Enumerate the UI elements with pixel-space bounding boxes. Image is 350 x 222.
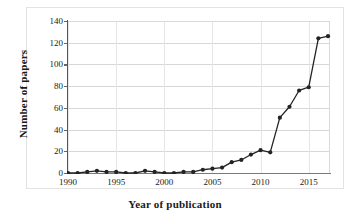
data-point: [249, 152, 253, 156]
data-point: [133, 171, 137, 174]
data-point: [67, 171, 70, 174]
data-point: [239, 158, 243, 162]
data-point: [210, 167, 214, 171]
y-tick-mark: [64, 64, 67, 65]
x-tick-label: 2005: [192, 178, 232, 187]
y-tick-label: 100: [33, 60, 63, 69]
data-point: [172, 171, 176, 174]
y-tick-mark: [64, 173, 67, 174]
data-point: [162, 171, 166, 174]
data-point: [85, 170, 89, 174]
data-point: [297, 88, 301, 92]
data-point: [153, 170, 157, 174]
data-point: [124, 171, 128, 174]
y-tick-mark: [64, 151, 67, 152]
data-point: [230, 160, 234, 164]
y-tick-mark: [64, 86, 67, 87]
x-tick-label: 1990: [48, 178, 88, 187]
y-axis-title: Number of papers: [17, 19, 29, 169]
data-series-papers: [67, 21, 331, 174]
y-tick-mark: [64, 21, 67, 22]
y-tick-mark: [64, 108, 67, 109]
y-tick-label: 80: [33, 82, 63, 91]
y-tick-label: 60: [33, 104, 63, 113]
data-point: [114, 170, 118, 174]
y-tick-mark: [64, 130, 67, 131]
data-point: [258, 148, 262, 152]
data-point: [220, 165, 224, 169]
data-point: [326, 34, 330, 38]
data-point: [307, 85, 311, 89]
data-point: [287, 105, 291, 109]
data-point: [268, 150, 272, 154]
y-tick-label: 20: [33, 147, 63, 156]
data-point: [316, 36, 320, 40]
data-point: [181, 170, 185, 174]
x-tick-label: 1995: [96, 178, 136, 187]
data-point: [95, 169, 99, 173]
data-point: [143, 169, 147, 173]
chart-figure: Number of papers Year of publication 020…: [0, 0, 350, 222]
data-point: [76, 171, 80, 174]
y-tick-label: 40: [33, 126, 63, 135]
data-point: [201, 168, 205, 172]
data-point: [278, 116, 282, 120]
y-axis-tick-labels: 020406080100120140: [31, 0, 63, 222]
data-point: [191, 170, 195, 174]
x-tick-label: 2000: [144, 178, 184, 187]
data-point: [104, 170, 108, 174]
y-tick-label: 120: [33, 39, 63, 48]
x-tick-label: 2010: [241, 178, 281, 187]
x-tick-label: 2015: [289, 178, 329, 187]
y-tick-label: 140: [33, 17, 63, 26]
series-line: [68, 36, 328, 173]
y-tick-mark: [64, 43, 67, 44]
